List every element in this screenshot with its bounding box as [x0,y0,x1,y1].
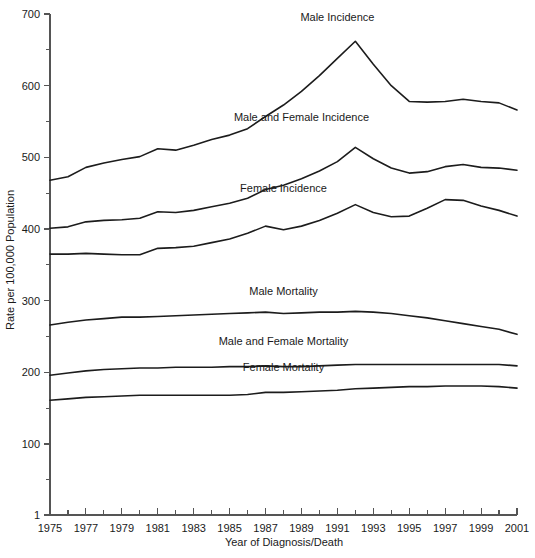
x-tick-label: 1997 [433,522,457,534]
chart-axes [50,14,517,515]
y-tick-label: 300 [22,295,40,307]
x-tick-label: 2001 [505,522,529,534]
series-line [50,386,517,400]
y-tick-label: 600 [22,80,40,92]
x-tick-label: 1983 [181,522,205,534]
series-label: Male and Female Mortality [219,335,349,347]
x-tick-label: 1977 [74,522,98,534]
chart-container: 1975197719791981198319851987198919911993… [0,0,535,558]
y-tick-label: 500 [22,151,40,163]
y-tick-label: 700 [22,8,40,20]
series-label: Male Incidence [300,11,374,23]
series-annotations: Male IncidenceMale and Female IncidenceF… [219,11,375,373]
series-label: Female Mortality [243,361,325,373]
y-tick-label: 100 [22,438,40,450]
x-tick-label: 1979 [110,522,134,534]
series-label: Male and Female Incidence [234,111,369,123]
x-axis-ticks [50,508,517,515]
y-tick-label: 1 [34,509,40,521]
series-label: Female Incidence [240,182,327,194]
y-axis-tick-labels: 1100200300400500600700 [22,8,40,521]
y-tick-label: 400 [22,223,40,235]
x-axis-title: Year of Diagnosis/Death [225,536,343,548]
series-line [50,200,517,255]
x-tick-label: 1981 [146,522,170,534]
x-tick-label: 1989 [289,522,313,534]
rate-trend-line-chart: 1975197719791981198319851987198919911993… [0,0,535,558]
x-tick-label: 1987 [253,522,277,534]
y-tick-label: 200 [22,366,40,378]
x-tick-label: 1999 [469,522,493,534]
x-tick-label: 1995 [397,522,421,534]
x-tick-label: 1985 [217,522,241,534]
y-axis-title: Rate per 100,000 Population [4,190,16,330]
x-tick-label: 1975 [38,522,62,534]
x-tick-label: 1993 [361,522,385,534]
x-tick-label: 1991 [325,522,349,534]
series-label: Male Mortality [249,285,318,297]
x-axis-tick-labels: 1975197719791981198319851987198919911993… [38,522,529,534]
y-axis-ticks [44,14,50,515]
series-line [50,311,517,334]
